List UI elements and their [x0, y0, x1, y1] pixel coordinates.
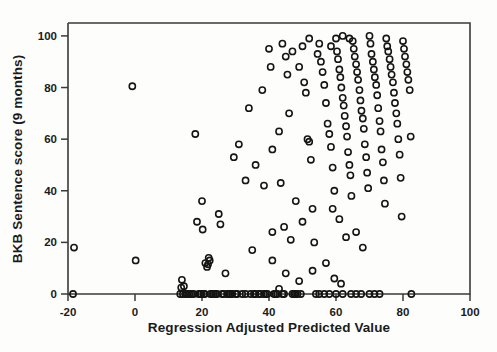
data-point: [405, 77, 411, 83]
data-point: [333, 35, 339, 41]
data-point: [200, 226, 206, 232]
data-point: [361, 126, 367, 132]
data-point: [343, 234, 349, 240]
data-point: [279, 41, 285, 47]
data-point: [217, 221, 223, 227]
data-point: [351, 46, 357, 52]
data-point: [194, 219, 200, 225]
scatter-plot-figure: -20020406080100 020406080100 Regression …: [0, 0, 497, 352]
data-point: [299, 219, 305, 225]
data-point: [345, 149, 351, 155]
data-point: [320, 69, 326, 75]
data-point: [393, 110, 399, 116]
data-point: [278, 180, 284, 186]
data-point: [342, 113, 348, 119]
data-point: [314, 51, 320, 57]
data-point: [378, 146, 384, 152]
data-point: [401, 46, 407, 52]
data-point: [353, 229, 359, 235]
data-point: [358, 108, 364, 114]
data-point: [303, 90, 309, 96]
data-point: [352, 53, 358, 59]
data-point: [365, 185, 371, 191]
data-point: [299, 43, 305, 49]
data-point: [348, 193, 354, 199]
data-point: [336, 216, 342, 222]
data-point: [179, 277, 185, 283]
data-point: [363, 154, 369, 160]
data-point: [133, 257, 139, 263]
data-point: [283, 53, 289, 59]
data-point: [311, 239, 317, 245]
data-point: [286, 110, 292, 116]
data-point: [296, 64, 302, 70]
data-point: [372, 74, 378, 80]
data-point: [395, 136, 401, 142]
data-point: [269, 229, 275, 235]
y-tick-label: 0: [51, 288, 57, 300]
data-point: [281, 224, 287, 230]
data-point: [336, 66, 342, 72]
data-point: [390, 79, 396, 85]
data-point: [399, 213, 405, 219]
data-point: [276, 128, 282, 134]
data-point: [377, 128, 383, 134]
data-point: [222, 270, 228, 276]
data-point: [129, 83, 135, 89]
data-point: [289, 48, 295, 54]
data-point: [367, 41, 373, 47]
data-point: [388, 64, 394, 70]
data-point: [216, 211, 222, 217]
x-tick-label: 0: [132, 306, 138, 318]
y-tick-label: 40: [44, 185, 57, 197]
x-tick-label: 80: [397, 306, 410, 318]
data-point: [323, 100, 329, 106]
data-point: [340, 95, 346, 101]
x-tick-label: -20: [60, 306, 77, 318]
data-point: [249, 247, 255, 253]
data-point: [382, 201, 388, 207]
data-point: [326, 131, 332, 137]
data-point: [199, 198, 205, 204]
y-axis-tick-labels: 020406080100: [38, 30, 57, 300]
data-point: [334, 48, 340, 54]
data-point: [330, 164, 336, 170]
y-tick-label: 80: [44, 82, 57, 94]
data-point: [344, 133, 350, 139]
data-point: [261, 183, 267, 189]
x-axis-title: Regression Adjusted Predicted Value: [148, 320, 391, 335]
data-point: [301, 79, 307, 85]
data-point: [328, 43, 334, 49]
data-point: [356, 87, 362, 93]
data-point: [402, 53, 408, 59]
data-point: [296, 278, 302, 284]
data-point: [284, 72, 290, 78]
y-tick-label: 20: [44, 236, 57, 248]
data-point: [357, 97, 363, 103]
data-point: [371, 66, 377, 72]
data-point: [355, 77, 361, 83]
data-point: [246, 105, 252, 111]
data-point: [362, 141, 368, 147]
y-axis-title: BKB Sentence score (9 months): [10, 55, 25, 263]
y-tick-label: 60: [44, 133, 57, 145]
data-point: [325, 121, 331, 127]
data-point: [306, 35, 312, 41]
data-point: [309, 206, 315, 212]
data-point: [268, 64, 274, 70]
data-point: [373, 82, 379, 88]
data-point: [360, 244, 366, 250]
data-point: [397, 152, 403, 158]
data-point: [354, 69, 360, 75]
data-point: [389, 72, 395, 78]
data-point: [266, 46, 272, 52]
x-tick-label: 60: [330, 306, 343, 318]
x-tick-label: 20: [196, 306, 209, 318]
data-point: [309, 268, 315, 274]
data-point: [408, 133, 414, 139]
data-point: [360, 115, 366, 121]
data-point: [391, 90, 397, 96]
data-point: [242, 177, 248, 183]
data-point: [337, 74, 343, 80]
data-point: [346, 162, 352, 168]
